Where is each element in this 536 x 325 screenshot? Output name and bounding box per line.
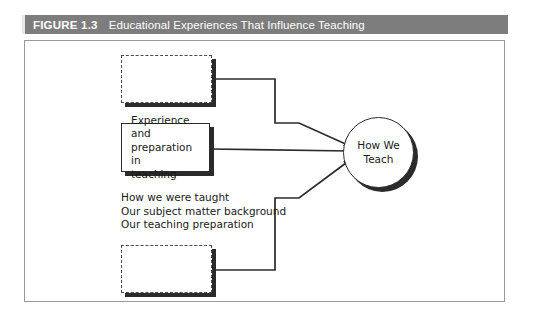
box-face-top bbox=[121, 55, 212, 103]
detail-list-item-2: Our subject matter background bbox=[121, 205, 286, 219]
node-box-bottom[interactable] bbox=[121, 245, 212, 293]
node-label-middle: Experience and preparation in teaching bbox=[122, 114, 209, 182]
node-label-middle-line1: Experience and bbox=[131, 114, 190, 140]
figure-title: Educational Experiences That Influence T… bbox=[98, 19, 365, 31]
node-circle-how-we-teach[interactable]: How We Teach bbox=[343, 117, 414, 188]
box-face-middle: Experience and preparation in teaching bbox=[121, 123, 210, 172]
figure-number-label: FIGURE 1.3 bbox=[25, 19, 98, 31]
detail-list-item-3: Our teaching preparation bbox=[121, 218, 286, 232]
circle-label-line1: How We bbox=[357, 139, 399, 151]
circle-label-line2: Teach bbox=[364, 153, 394, 165]
detail-list-item-1: How we were taught bbox=[121, 191, 286, 205]
node-label-middle-line3: teaching bbox=[131, 168, 177, 180]
node-box-middle[interactable]: Experience and preparation in teaching bbox=[121, 123, 210, 172]
circle-face: How We Teach bbox=[343, 117, 414, 188]
figure-root: FIGURE 1.3 Educational Experiences That … bbox=[0, 0, 536, 325]
figure-caption-bar: FIGURE 1.3 Educational Experiences That … bbox=[22, 15, 508, 34]
node-box-top[interactable] bbox=[121, 55, 212, 103]
figure-frame bbox=[24, 40, 505, 302]
box-face-bottom bbox=[121, 245, 212, 293]
circle-label: How We Teach bbox=[357, 139, 399, 166]
node-label-middle-line2: preparation in bbox=[131, 141, 192, 167]
detail-list: How we were taught Our subject matter ba… bbox=[121, 191, 286, 232]
